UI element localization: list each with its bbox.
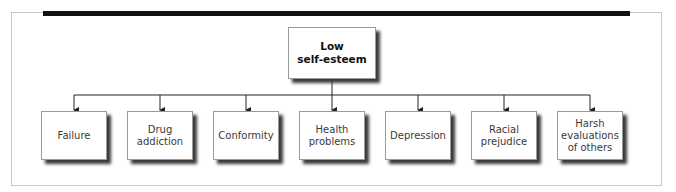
node-conformity: Conformity <box>213 111 279 160</box>
node-health-problems: Health problems <box>299 111 365 160</box>
root-node-low-self-esteem: Low self-esteem <box>288 27 376 79</box>
node-racial-prejudice: Racial prejudice <box>471 111 537 160</box>
node-harsh-evaluations: Harsh evaluations of others <box>557 111 623 160</box>
node-depression: Depression <box>385 111 451 160</box>
node-failure: Failure <box>41 111 107 160</box>
node-drug-addiction: Drug addiction <box>127 111 193 160</box>
